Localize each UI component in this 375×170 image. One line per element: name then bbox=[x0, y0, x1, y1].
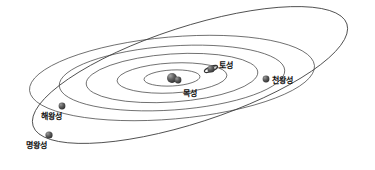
planet-body-uranus bbox=[263, 76, 270, 83]
planet-saturn-group bbox=[204, 64, 219, 73]
solar-system-diagram: 토성 천왕성 목성 해왕성 명왕성 bbox=[0, 0, 375, 170]
planet-label-saturn: 토성 bbox=[219, 62, 233, 70]
planet-body-saturn bbox=[207, 65, 214, 72]
planet-body-pluto bbox=[45, 131, 52, 138]
planet-label-pluto: 명왕성 bbox=[26, 142, 48, 150]
planet-label-uranus: 천왕성 bbox=[272, 77, 294, 85]
planet-body-jupiter bbox=[175, 77, 182, 84]
inclined-orbit-pluto bbox=[18, 0, 362, 170]
orbit-canvas bbox=[0, 0, 375, 170]
planet-label-neptune: 해왕성 bbox=[41, 113, 63, 121]
planet-label-jupiter: 목성 bbox=[183, 90, 197, 98]
planet-body-neptune bbox=[59, 103, 66, 110]
